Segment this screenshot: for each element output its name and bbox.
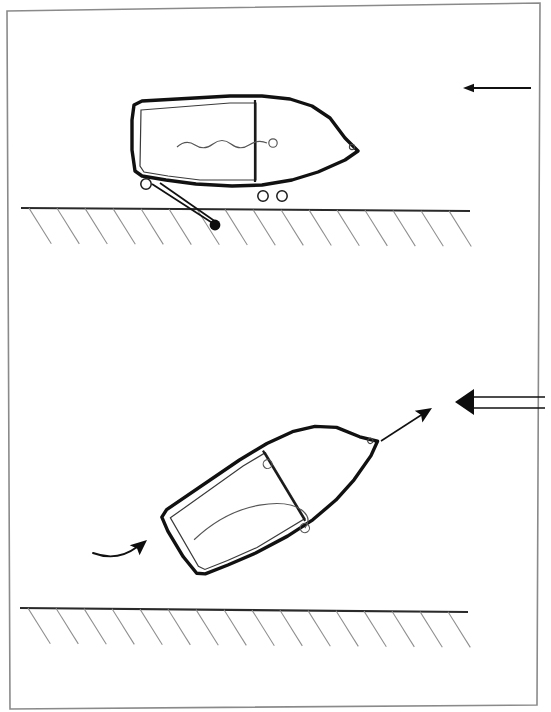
roller-fwd (277, 191, 287, 201)
roller-aft (141, 179, 151, 189)
patent-drawing-canvas (0, 0, 551, 712)
pivot-point (210, 220, 221, 231)
roller-mid (258, 191, 268, 201)
drawing-sheet (0, 0, 551, 712)
